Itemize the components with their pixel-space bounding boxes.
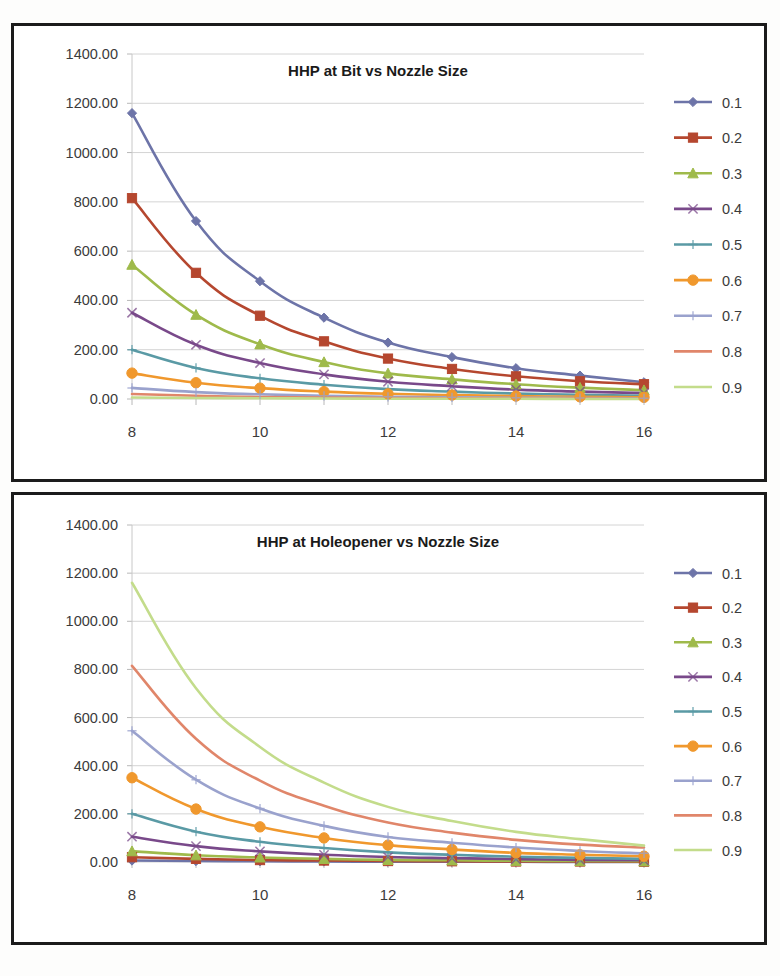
data-point-marker [688, 240, 697, 249]
data-point-marker [447, 353, 456, 362]
legend-label: 0.1 [722, 95, 742, 111]
chart-title: HHP at Holeopener vs Nozzle Size [257, 533, 499, 550]
legend-label: 0.9 [722, 843, 742, 859]
data-point-marker [191, 268, 200, 277]
data-point-marker [688, 275, 698, 285]
legend-label: 0.6 [722, 739, 742, 755]
legend-item-0.4[interactable]: 0.4 [674, 669, 742, 685]
data-point-marker [255, 374, 264, 383]
legend-label: 0.5 [722, 237, 742, 253]
data-point-marker [319, 821, 328, 830]
legend-label: 0.3 [722, 635, 742, 651]
legend-item-0.8[interactable]: 0.8 [674, 344, 742, 360]
legend-item-0.7[interactable]: 0.7 [674, 773, 742, 789]
y-axis-tick-label: 800.00 [74, 661, 118, 677]
data-point-marker [191, 378, 201, 388]
x-axis-tick-label: 10 [252, 423, 269, 440]
legend-item-0.9[interactable]: 0.9 [674, 380, 742, 396]
legend-label: 0.4 [722, 201, 742, 217]
y-axis-tick-label: 1000.00 [66, 145, 118, 161]
chart-bottom-svg: 0.00200.00400.00600.00800.001000.001200.… [14, 495, 764, 942]
data-point-marker [255, 311, 264, 320]
data-point-marker [383, 338, 392, 347]
data-point-marker [127, 773, 137, 783]
data-point-marker [688, 603, 697, 612]
legend-label: 0.6 [722, 273, 742, 289]
y-axis-tick-label: 1400.00 [66, 46, 118, 62]
legend-item-0.7[interactable]: 0.7 [674, 308, 742, 324]
legend-item-0.6[interactable]: 0.6 [674, 739, 742, 755]
x-axis-tick-label: 16 [636, 423, 653, 440]
data-point-marker [688, 133, 697, 142]
legend-label: 0.8 [722, 808, 742, 824]
data-point-marker [688, 97, 697, 106]
legend-item-0.1[interactable]: 0.1 [674, 95, 742, 111]
y-axis-tick-label: 1200.00 [66, 95, 118, 111]
x-axis-tick-label: 14 [508, 886, 525, 903]
data-point-marker [255, 837, 264, 846]
legend-label: 0.4 [722, 669, 742, 685]
legend-label: 0.8 [722, 344, 742, 360]
x-axis-tick-label: 8 [128, 886, 136, 903]
x-axis-tick-label: 12 [380, 886, 397, 903]
data-point-marker [191, 363, 200, 372]
series-line-0.9 [132, 583, 644, 846]
legend-item-0.5[interactable]: 0.5 [674, 237, 742, 253]
legend-item-0.3[interactable]: 0.3 [674, 635, 742, 651]
chart-title: HHP at Bit vs Nozzle Size [288, 62, 468, 79]
y-axis-tick-label: 0.00 [90, 854, 118, 870]
y-axis-tick-label: 600.00 [74, 710, 118, 726]
legend-item-0.1[interactable]: 0.1 [674, 566, 742, 582]
data-point-marker [319, 833, 329, 843]
y-axis-tick-label: 200.00 [74, 806, 118, 822]
data-point-marker [127, 345, 136, 354]
legend-item-0.9[interactable]: 0.9 [674, 843, 742, 859]
y-axis-tick-label: 400.00 [74, 292, 118, 308]
data-point-marker [383, 354, 392, 363]
legend-label: 0.1 [722, 566, 742, 582]
legend-item-0.3[interactable]: 0.3 [674, 166, 742, 182]
series-markers-0.2 [127, 194, 648, 389]
data-point-marker [127, 194, 136, 203]
data-point-marker [447, 364, 456, 373]
data-point-marker [127, 383, 136, 392]
y-axis-tick-label: 800.00 [74, 194, 118, 210]
data-point-marker [688, 568, 697, 577]
legend-label: 0.3 [722, 166, 742, 182]
y-axis-tick-label: 1200.00 [66, 565, 118, 581]
y-axis-tick-label: 600.00 [74, 243, 118, 259]
data-point-marker [319, 337, 328, 346]
chart-top-svg: 0.00200.00400.00600.00800.001000.001200.… [14, 26, 764, 479]
data-point-marker [383, 832, 392, 841]
legend-label: 0.5 [722, 704, 742, 720]
x-axis-tick-label: 8 [128, 423, 136, 440]
data-point-marker [127, 259, 137, 269]
y-axis-tick-label: 1400.00 [66, 517, 118, 533]
data-point-marker [127, 809, 136, 818]
data-point-marker [688, 776, 697, 785]
data-point-marker [255, 822, 265, 832]
chart-panel-bottom: 0.00200.00400.00600.00800.001000.001200.… [11, 492, 767, 945]
data-point-marker [319, 313, 328, 322]
y-axis-tick-label: 0.00 [90, 391, 118, 407]
x-axis-tick-label: 16 [636, 886, 653, 903]
legend-label: 0.2 [722, 130, 742, 146]
y-axis-tick-label: 200.00 [74, 342, 118, 358]
x-axis-tick-label: 14 [508, 423, 525, 440]
legend-item-0.2[interactable]: 0.2 [674, 130, 742, 146]
y-axis-tick-label: 1000.00 [66, 613, 118, 629]
data-point-marker [688, 741, 698, 751]
series-line-0.8 [132, 666, 644, 848]
legend-label: 0.9 [722, 380, 742, 396]
legend-item-0.4[interactable]: 0.4 [674, 201, 742, 217]
legend-item-0.5[interactable]: 0.5 [674, 704, 742, 720]
data-point-marker [255, 804, 264, 813]
chart-panel-top: 0.00200.00400.00600.00800.001000.001200.… [11, 23, 767, 482]
data-point-marker [688, 707, 697, 716]
document-page: 0.00200.00400.00600.00800.001000.001200.… [0, 0, 780, 976]
legend-item-0.2[interactable]: 0.2 [674, 600, 742, 616]
legend-item-0.6[interactable]: 0.6 [674, 273, 742, 289]
legend-item-0.8[interactable]: 0.8 [674, 808, 742, 824]
legend-label: 0.7 [722, 773, 742, 789]
x-axis-tick-label: 12 [380, 423, 397, 440]
